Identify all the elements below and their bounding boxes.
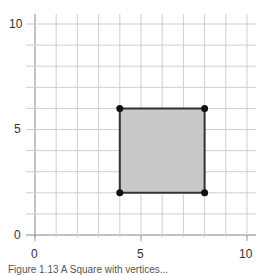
x-tick-0: 0	[31, 248, 38, 260]
vertex-point	[116, 189, 123, 196]
y-tick-0: 0	[14, 229, 21, 241]
vertex-point	[201, 105, 208, 112]
x-tick-10: 10	[239, 248, 252, 260]
vertex-point	[116, 105, 123, 112]
x-tick-5: 5	[137, 248, 144, 260]
y-tick-5: 5	[14, 123, 21, 135]
vertex-point	[201, 189, 208, 196]
y-tick-10: 10	[9, 18, 22, 30]
figure-caption: Figure 1.13 A Square with vertices...	[8, 264, 168, 275]
square-shape	[120, 108, 205, 192]
